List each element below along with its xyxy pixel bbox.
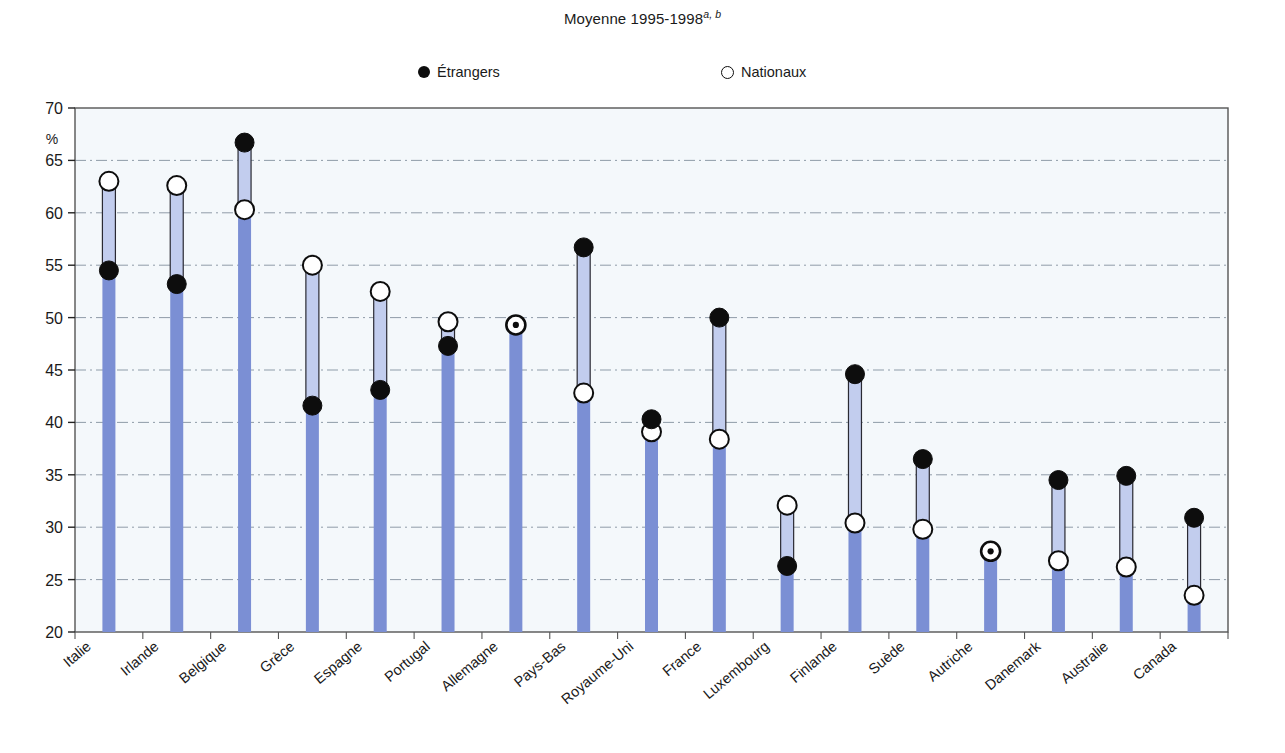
data-point-nationaux [913,520,932,539]
data-point-etrangers [1049,471,1068,490]
x-category-label: France [659,638,704,679]
data-point-etrangers [371,380,390,399]
data-point-nationaux [235,200,254,219]
x-category-label: Allemagne [438,638,501,694]
bar-base-segment [645,432,658,632]
bar-base-segment [238,210,251,632]
data-point-etrangers [303,396,322,415]
y-tick-label: 65 [45,152,63,169]
bar-range-segment [848,374,861,523]
bar-base-segment [170,284,183,632]
y-tick-label: 35 [45,467,63,484]
x-category-label: Luxembourg [700,638,772,702]
y-tick-label: 55 [45,257,63,274]
x-category-label: Suède [865,638,907,677]
x-category-label: Grèce [257,638,298,676]
y-tick-label: 70 [45,100,63,117]
bar-range-segment [713,318,726,440]
data-point-etrangers [99,261,118,280]
data-point-nationaux [99,172,118,191]
data-point-etrangers [988,548,994,554]
x-category-label: Pays-Bas [511,638,569,690]
y-tick-label: 30 [45,519,63,536]
data-point-nationaux [303,256,322,275]
range-bar-chart: 2025303540455055606570%ItalieIrlandeBelg… [0,0,1285,753]
bar-base-segment [442,346,455,632]
x-category-label: Australie [1058,638,1112,687]
data-point-nationaux [1117,558,1136,577]
bar-base-segment [848,523,861,632]
data-point-nationaux [845,514,864,533]
bar-base-segment [374,390,387,632]
x-category-label: Portugal [381,638,433,685]
data-point-etrangers [845,365,864,384]
data-point-etrangers [235,133,254,152]
data-point-nationaux [1185,586,1204,605]
bar-base-segment [1052,561,1065,632]
x-category-label: Belgique [176,638,230,687]
bar-base-segment [984,551,997,632]
bar-range-segment [374,291,387,390]
bar-range-segment [1052,480,1065,561]
bar-base-segment [577,393,590,632]
bar-range-segment [306,265,319,405]
data-point-etrangers [778,556,797,575]
data-point-nationaux [167,176,186,195]
bar-base-segment [713,439,726,632]
data-point-nationaux [1049,551,1068,570]
data-point-nationaux [710,430,729,449]
x-category-label: Irlande [117,638,161,679]
data-point-etrangers [167,275,186,294]
bar-range-segment [1188,518,1201,596]
bar-range-segment [102,181,115,270]
data-point-etrangers [710,308,729,327]
bar-base-segment [306,406,319,632]
data-point-etrangers [913,450,932,469]
y-tick-label: 60 [45,205,63,222]
data-point-etrangers [642,410,661,429]
y-tick-label: 20 [45,624,63,641]
chart-plot-area: 2025303540455055606570%ItalieIrlandeBelg… [0,0,1285,753]
bar-range-segment [170,186,183,285]
x-category-label: Danemark [982,638,1044,694]
data-point-nationaux [371,282,390,301]
y-axis-unit-label: % [46,131,58,147]
data-point-etrangers [1117,466,1136,485]
bar-range-segment [1120,476,1133,567]
x-category-label: Italie [60,638,94,670]
y-tick-label: 25 [45,572,63,589]
x-category-label: Royaume-Uni [558,638,636,707]
data-point-etrangers [439,336,458,355]
data-point-nationaux [574,384,593,403]
data-point-nationaux [778,496,797,515]
data-point-etrangers [574,238,593,257]
x-category-label: Autriche [925,638,976,684]
y-tick-label: 45 [45,362,63,379]
data-point-etrangers [1185,508,1204,527]
x-category-label: Finlande [787,638,840,686]
y-tick-label: 50 [45,310,63,327]
y-tick-label: 40 [45,414,63,431]
data-point-etrangers [513,322,519,328]
bar-range-segment [577,247,590,393]
bar-range-segment [916,459,929,529]
x-category-label: Canada [1130,637,1180,683]
bar-base-segment [509,325,522,632]
data-point-nationaux [439,312,458,331]
x-category-label: Espagne [311,638,365,687]
bar-base-segment [916,529,929,632]
bar-base-segment [102,270,115,632]
